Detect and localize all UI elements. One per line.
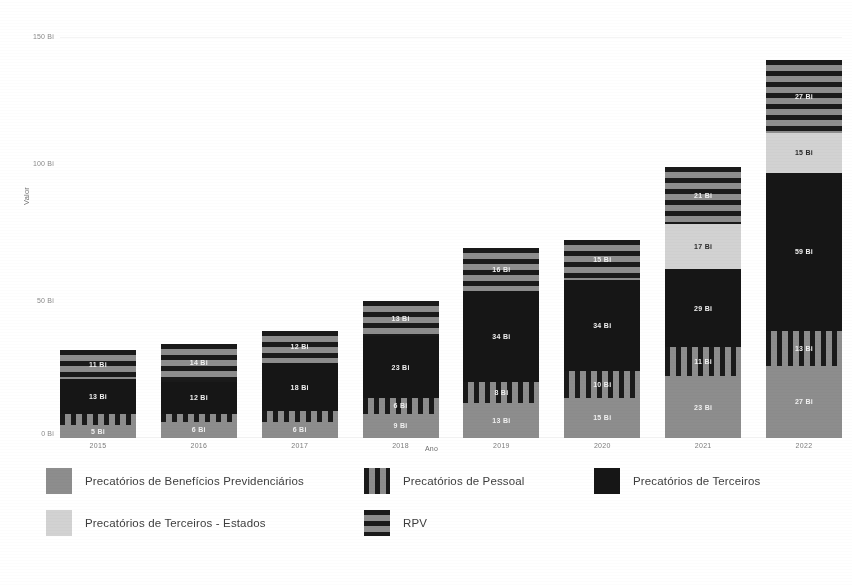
bar-segment-value-label: 23 Bi	[694, 404, 712, 411]
x-axis-tick-2015: 2015	[60, 442, 136, 449]
plot-area: 11 Bi13 Bi5 Bi14 Bi12 Bi6 Bi12 Bi18 Bi6 …	[60, 36, 842, 438]
legend-label-previdenciarios: Precatórios de Benefícios Previdenciário…	[85, 475, 304, 487]
bar-segment[interactable]: 15 Bi	[564, 398, 640, 438]
x-axis-tick-2017: 2017	[262, 442, 338, 449]
bar-segment-value-label: 34 Bi	[593, 322, 611, 329]
bar-group-2022[interactable]: 27 Bi15 Bi59 Bi13 Bi27 Bi	[766, 60, 842, 438]
swatch-pessoal-icon	[364, 468, 390, 494]
bar-segment-value-label: 10 Bi	[593, 381, 611, 388]
bar-segment[interactable]: 18 Bi	[262, 363, 338, 411]
bar-segment[interactable]: 6 Bi	[262, 422, 338, 438]
bar-segment-value-label: 15 Bi	[593, 256, 611, 263]
y-axis-tick-150: 150 Bi	[0, 33, 54, 40]
x-axis-tick-2019: 2019	[463, 442, 539, 449]
y-axis-tick-100: 100 Bi	[0, 160, 54, 167]
bar-segment-value-label: 59 Bi	[795, 248, 813, 255]
bar-segment-value-label: 34 Bi	[492, 333, 510, 340]
bar-group-2015[interactable]: 11 Bi13 Bi5 Bi	[60, 350, 136, 438]
x-axis-tick-2022: 2022	[766, 442, 842, 449]
bar-segment-value-label: 8 Bi	[494, 389, 508, 396]
x-axis-tick-2016: 2016	[161, 442, 237, 449]
bar-segment-value-label: 16 Bi	[492, 266, 510, 273]
legend-item-terceiros[interactable]: Precatórios de Terceiros	[594, 468, 760, 494]
bar-segment-value-label: 15 Bi	[593, 414, 611, 421]
bar-segment[interactable]: 13 Bi	[463, 403, 539, 438]
bar-segment[interactable]: 23 Bi	[665, 376, 741, 438]
chart-legend: Precatórios de Benefícios Previdenciário…	[46, 468, 806, 538]
bar-segment-value-label: 6 Bi	[293, 426, 307, 433]
bar-segment-value-label: 13 Bi	[391, 315, 409, 322]
bar-segment-value-label: 12 Bi	[291, 343, 309, 350]
bar-segment[interactable]: 13 Bi	[60, 379, 136, 414]
bar-segment[interactable]: 27 Bi	[766, 366, 842, 438]
x-axis-title: Ano	[425, 445, 438, 452]
bar-segment-value-label: 18 Bi	[291, 384, 309, 391]
bar-segment[interactable]: 29 Bi	[665, 269, 741, 347]
y-axis-tick-50: 50 Bi	[0, 297, 54, 304]
swatch-terceiros-estados-icon	[46, 510, 72, 536]
bar-segment-value-label: 15 Bi	[795, 149, 813, 156]
bar-group-2021[interactable]: 21 Bi17 Bi29 Bi11 Bi23 Bi	[665, 167, 741, 438]
bar-segment-value-label: 13 Bi	[795, 345, 813, 352]
swatch-terceiros-icon	[594, 468, 620, 494]
bar-segment[interactable]: 34 Bi	[564, 280, 640, 371]
bar-segment[interactable]: 11 Bi	[665, 347, 741, 376]
bar-segment-value-label: 12 Bi	[190, 394, 208, 401]
bar-segment[interactable]: 6 Bi	[363, 398, 439, 414]
bar-segment-value-label: 5 Bi	[91, 428, 105, 435]
bar-segment[interactable]: 12 Bi	[161, 382, 237, 414]
bar-segment[interactable]: 23 Bi	[363, 336, 439, 398]
bar-segment-value-label: 11 Bi	[694, 358, 712, 365]
bar-segment[interactable]: 12 Bi	[262, 331, 338, 363]
bar-segment-value-label: 13 Bi	[89, 393, 107, 400]
bar-group-2018[interactable]: 13 Bi23 Bi6 Bi9 Bi	[363, 301, 439, 438]
bar-segment[interactable]: 16 Bi	[463, 248, 539, 291]
legend-item-rpv[interactable]: RPV	[364, 510, 427, 536]
bar-segment-value-label: 9 Bi	[394, 422, 408, 429]
bar-group-2016[interactable]: 14 Bi12 Bi6 Bi	[161, 344, 237, 438]
bar-segment[interactable]: 14 Bi	[161, 344, 237, 382]
bar-segment-value-label: 17 Bi	[694, 243, 712, 250]
swatch-previdenciarios-icon	[46, 468, 72, 494]
bar-segment[interactable]: 21 Bi	[665, 167, 741, 223]
bar-segment[interactable]: 11 Bi	[60, 350, 136, 379]
bar-segment[interactable]: 13 Bi	[766, 331, 842, 366]
bar-segment[interactable]: 15 Bi	[564, 240, 640, 280]
bar-segment[interactable]: 9 Bi	[363, 414, 439, 438]
bar-segment[interactable]: 34 Bi	[463, 291, 539, 382]
bar-segment-value-label: 11 Bi	[89, 361, 107, 368]
bar-segment-value-label: 29 Bi	[694, 305, 712, 312]
bar-group-2017[interactable]: 12 Bi18 Bi6 Bi	[262, 331, 338, 438]
legend-item-previdenciarios[interactable]: Precatórios de Benefícios Previdenciário…	[46, 468, 304, 494]
bar-segment[interactable]: 59 Bi	[766, 173, 842, 331]
legend-label-pessoal: Precatórios de Pessoal	[403, 475, 525, 487]
bar-group-2019[interactable]: 16 Bi34 Bi8 Bi13 Bi	[463, 248, 539, 438]
x-axis-tick-2020: 2020	[564, 442, 640, 449]
bar-segment[interactable]: 8 Bi	[463, 382, 539, 403]
bar-segment[interactable]: 10 Bi	[564, 371, 640, 398]
stacked-bar-chart: Valor 150 Bi 100 Bi 50 Bi 0 Bi 11 Bi13 B…	[0, 0, 852, 585]
bar-segment-value-label: 21 Bi	[694, 192, 712, 199]
legend-label-terceiros-estados: Precatórios de Terceiros - Estados	[85, 517, 266, 529]
bar-segment-value-label: 27 Bi	[795, 398, 813, 405]
bar-segment[interactable]: 15 Bi	[766, 133, 842, 173]
bar-segment[interactable]: 27 Bi	[766, 60, 842, 132]
bar-segment-value-label: 14 Bi	[190, 359, 208, 366]
legend-label-terceiros: Precatórios de Terceiros	[633, 475, 760, 487]
bar-segment[interactable]: 6 Bi	[161, 422, 237, 438]
legend-item-terceiros-estados[interactable]: Precatórios de Terceiros - Estados	[46, 510, 266, 536]
bar-segment[interactable]	[60, 414, 136, 425]
bar-segment[interactable]	[262, 411, 338, 422]
bar-segment-value-label: 6 Bi	[394, 402, 408, 409]
y-axis-title: Valor	[22, 187, 31, 205]
x-axis-tick-2021: 2021	[665, 442, 741, 449]
bar-group-2020[interactable]: 15 Bi34 Bi10 Bi15 Bi	[564, 240, 640, 438]
bar-segment[interactable]	[161, 414, 237, 422]
bar-segment[interactable]: 17 Bi	[665, 224, 741, 270]
bar-segment-value-label: 27 Bi	[795, 93, 813, 100]
bar-segment-value-label: 23 Bi	[391, 364, 409, 371]
bar-segment[interactable]: 13 Bi	[363, 301, 439, 336]
legend-item-pessoal[interactable]: Precatórios de Pessoal	[364, 468, 525, 494]
bar-segment-value-label: 6 Bi	[192, 426, 206, 433]
bar-segment[interactable]: 5 Bi	[60, 425, 136, 438]
